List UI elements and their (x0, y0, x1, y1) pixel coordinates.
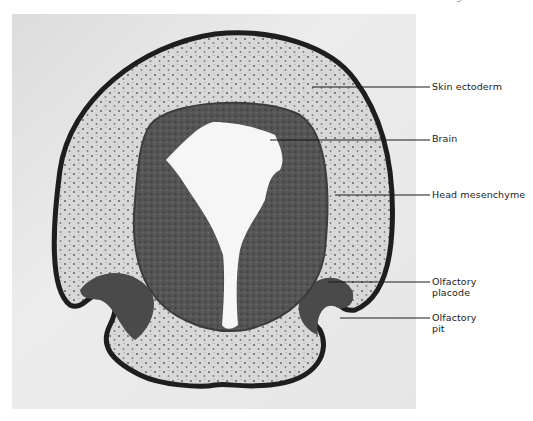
label-text-line2: placode (432, 287, 476, 298)
label-skin-ectoderm: Skin ectoderm (432, 81, 502, 92)
label-text: Olfactory (432, 276, 476, 287)
label-text: Brain (432, 133, 457, 144)
label-text-line2: pit (432, 323, 476, 334)
label-olfactory-pit: Olfactory pit (432, 312, 476, 334)
label-brain: Brain (432, 133, 457, 144)
label-olfactory-placode: Olfactory placode (432, 276, 476, 298)
label-text: Olfactory (432, 312, 476, 323)
micrograph-figure (0, 0, 533, 421)
label-head-mesenchyme: Head mesenchyme (432, 189, 525, 200)
label-text: Head mesenchyme (432, 189, 525, 200)
label-text: Skin ectoderm (432, 81, 502, 92)
